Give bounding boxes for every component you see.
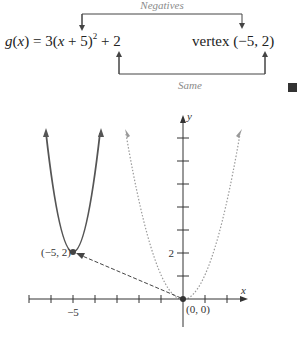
diagram-canvas: Negatives g(x) = 3(x + 5)2 + 2 vertex (−… xyxy=(0,0,306,341)
y-tick-label-2: 2 xyxy=(169,247,175,259)
x-axis-label: x xyxy=(240,284,246,296)
equation: g(x) = 3(x + 5)2 + 2 xyxy=(5,31,121,50)
same-label: Same xyxy=(178,79,202,91)
negatives-bracket: Negatives xyxy=(82,0,242,28)
same-bracket: Same xyxy=(119,54,265,91)
dotted-arrowhead-right-icon xyxy=(236,129,242,138)
x-axis: x −5 xyxy=(29,284,248,318)
solid-parabola-g xyxy=(46,133,100,252)
solid-arrowhead-right-icon xyxy=(98,128,104,137)
vertex-point-label: (−5, 2) xyxy=(41,246,71,259)
y-axis-label: y xyxy=(186,110,192,122)
end-marker-square xyxy=(288,83,297,92)
translation-arrowhead-icon xyxy=(76,253,85,259)
solid-arrowhead-left-icon xyxy=(43,128,49,137)
origin-point-label: (0, 0) xyxy=(186,303,210,316)
origin-point xyxy=(180,296,186,302)
dotted-arrowhead-left-icon xyxy=(125,129,130,138)
vertex-text: vertex (−5, 2) xyxy=(192,33,274,50)
translation-arrow xyxy=(80,255,181,298)
x-tick-label-minus5: −5 xyxy=(67,306,79,318)
negatives-label: Negatives xyxy=(139,0,183,11)
